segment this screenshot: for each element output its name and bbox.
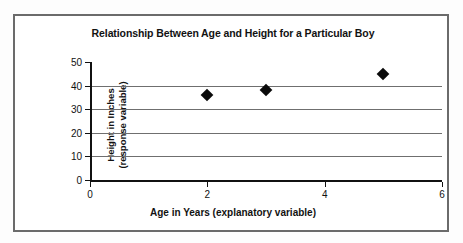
y-axis-line: [90, 62, 92, 181]
y-tick-mark: [85, 133, 90, 134]
y-tick-mark: [85, 62, 90, 63]
x-tick-mark-0: [90, 182, 91, 187]
x-tick-mark-6: [442, 182, 443, 187]
chart-title: Relationship Between Age and Height for …: [15, 27, 451, 39]
y-tick-label: 50: [71, 57, 82, 68]
plot-area: 01020304050 0246: [90, 62, 442, 180]
gridline-30: [90, 109, 442, 110]
y-tick-label: 30: [71, 104, 82, 115]
y-tick-label: 40: [71, 80, 82, 91]
data-point: [201, 89, 214, 102]
gridline-10: [90, 156, 442, 157]
x-tick-label: 0: [87, 189, 93, 200]
x-tick-mark-2: [207, 182, 208, 187]
chart-panel: Relationship Between Age and Height for …: [13, 14, 449, 232]
y-tick-mark: [85, 180, 90, 181]
figure-root: Relationship Between Age and Height for …: [0, 0, 463, 243]
gridline-20: [90, 133, 442, 134]
x-axis-line: [90, 180, 442, 182]
x-tick-label: 2: [205, 189, 211, 200]
y-tick-mark: [85, 109, 90, 110]
x-axis-title: Age in Years (explanatory variable): [15, 207, 451, 218]
y-tick-label: 0: [76, 175, 82, 186]
x-tick-label: 6: [439, 189, 445, 200]
y-tick-label: 20: [71, 127, 82, 138]
x-tick-label: 4: [322, 189, 328, 200]
y-tick-mark: [85, 86, 90, 87]
y-tick-mark: [85, 156, 90, 157]
x-tick-mark-4: [325, 182, 326, 187]
y-tick-label: 10: [71, 151, 82, 162]
y-axis-title: Height in Inches (response variable): [31, 60, 71, 190]
data-point: [377, 67, 390, 80]
